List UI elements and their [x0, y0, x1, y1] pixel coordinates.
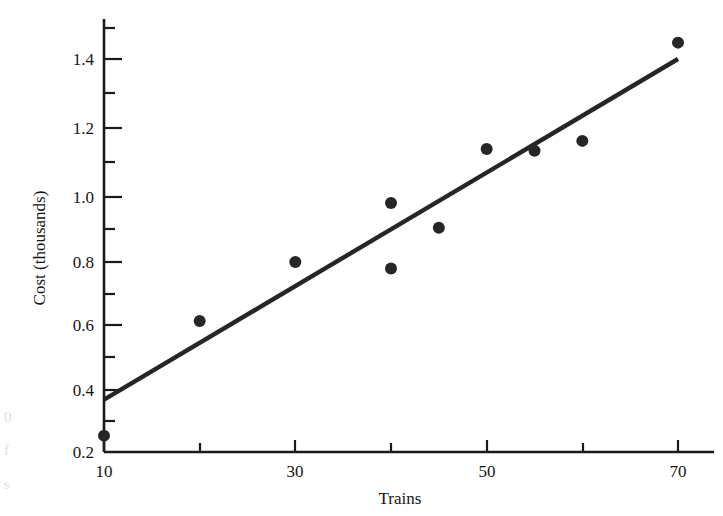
- scatter-plot-figure: 1.4 1.2 1.0 0.8 0.6 0.4 0.2 10 30 50 70: [0, 0, 723, 516]
- x-tick-label-50: 50: [479, 462, 496, 481]
- y-tick-label-1.2: 1.2: [73, 119, 94, 138]
- data-point: [98, 430, 110, 442]
- data-point: [433, 222, 445, 234]
- data-point: [385, 263, 397, 275]
- axis-spines: [104, 19, 714, 452]
- x-axis-tick-labels: 10 30 50 70: [96, 462, 687, 481]
- y-tick-label-0.6: 0.6: [73, 316, 94, 335]
- edge-fragment-middle: f: [4, 442, 9, 458]
- page-edge-fragments: 0 f s: [4, 409, 12, 492]
- y-axis-title: Cost (thousands): [30, 191, 49, 306]
- regression-line: [104, 59, 678, 400]
- x-axis-title: Trains: [379, 489, 422, 508]
- y-tick-label-0.2: 0.2: [73, 443, 94, 462]
- edge-fragment-bottom: s: [4, 476, 10, 492]
- data-point: [576, 135, 588, 147]
- data-point: [529, 145, 541, 157]
- edge-fragment-top: 0: [4, 409, 12, 425]
- y-tick-label-1.0: 1.0: [73, 188, 94, 207]
- data-point: [385, 197, 397, 209]
- data-point: [194, 315, 206, 327]
- y-axis-major-ticks: [104, 59, 122, 390]
- y-axis-minor-ticks: [104, 28, 115, 421]
- y-tick-label-0.4: 0.4: [73, 381, 95, 400]
- data-points: [98, 37, 684, 442]
- x-tick-label-70: 70: [670, 462, 687, 481]
- data-point: [289, 256, 301, 268]
- y-axis-tick-labels: 1.4 1.2 1.0 0.8 0.6 0.4 0.2: [73, 50, 95, 462]
- y-tick-label-1.4: 1.4: [73, 50, 95, 69]
- plot-canvas: 1.4 1.2 1.0 0.8 0.6 0.4 0.2 10 30 50 70: [0, 0, 723, 516]
- y-tick-label-0.8: 0.8: [73, 253, 94, 272]
- data-point: [481, 143, 493, 155]
- x-axis-minor-ticks: [200, 443, 583, 452]
- x-tick-label-30: 30: [287, 462, 304, 481]
- data-point: [672, 37, 684, 49]
- x-tick-label-10: 10: [96, 462, 113, 481]
